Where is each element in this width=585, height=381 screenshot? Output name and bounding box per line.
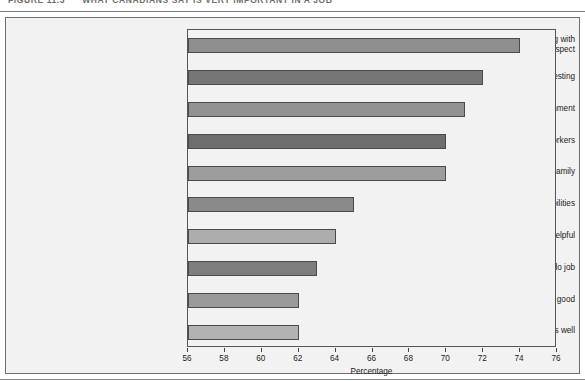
x-axis-tick-mark: [372, 348, 373, 352]
bar-row: [188, 30, 555, 62]
bar-row: [188, 189, 555, 221]
bar: [188, 261, 317, 276]
x-axis-tick-label: 76: [551, 354, 560, 363]
bar: [188, 38, 520, 53]
x-axis-tick-label: 74: [515, 354, 524, 363]
x-axis-tick-mark: [556, 348, 557, 352]
figure-title: WHAT CANADIANS SAY IS VERY IMPORTANT IN …: [82, 0, 332, 5]
x-axis-tick-mark: [224, 348, 225, 352]
x-axis-tick-mark: [335, 348, 336, 352]
bar: [188, 197, 354, 212]
bar-row: [188, 284, 555, 316]
x-axis-tick-mark: [519, 348, 520, 352]
x-axis-tick-label: 56: [182, 354, 191, 363]
bar: [188, 134, 446, 149]
chart-panel: People you are working withtreat you wit…: [5, 17, 580, 374]
bar: [188, 293, 299, 308]
x-axis-tick-label: 64: [330, 354, 339, 363]
x-axis-tick-label: 62: [293, 354, 302, 363]
plot-area: [187, 29, 556, 347]
bar-row: [188, 221, 555, 253]
bar-row: [188, 125, 555, 157]
x-axis-title: Percentage: [187, 367, 556, 376]
title-divider: [0, 11, 585, 12]
bar-row: [188, 316, 555, 348]
figure-title-inner: FIGURE 11.3 WHAT CANADIANS SAY IS VERY I…: [8, 0, 333, 5]
bar-row: [188, 94, 555, 126]
x-axis-tick-label: 60: [256, 354, 265, 363]
figure-number: FIGURE 11.3: [8, 0, 65, 5]
bar: [188, 166, 446, 181]
x-axis-tick-label: 70: [441, 354, 450, 363]
x-axis-tick-mark: [408, 348, 409, 352]
bar-row: [188, 253, 555, 285]
figure-title-band: FIGURE 11.3 WHAT CANADIANS SAY IS VERY I…: [0, 0, 585, 11]
x-axis-tick-label: 66: [367, 354, 376, 363]
x-axis-tick-mark: [298, 348, 299, 352]
x-axis-tick-label: 72: [478, 354, 487, 363]
figure-root: FIGURE 11.3 WHAT CANADIANS SAY IS VERY I…: [0, 0, 585, 381]
bottom-divider: [0, 379, 585, 380]
x-axis-tick-mark: [445, 348, 446, 352]
x-axis-tick-label: 68: [404, 354, 413, 363]
bar-row: [188, 62, 555, 94]
x-axis-tick-mark: [482, 348, 483, 352]
x-axis-tick-label: 58: [219, 354, 228, 363]
x-axis-tick-mark: [261, 348, 262, 352]
bar: [188, 102, 465, 117]
bar: [188, 70, 483, 85]
bar: [188, 325, 299, 340]
bar: [188, 229, 336, 244]
bar-row: [188, 157, 555, 189]
x-axis-tick-mark: [187, 348, 188, 352]
